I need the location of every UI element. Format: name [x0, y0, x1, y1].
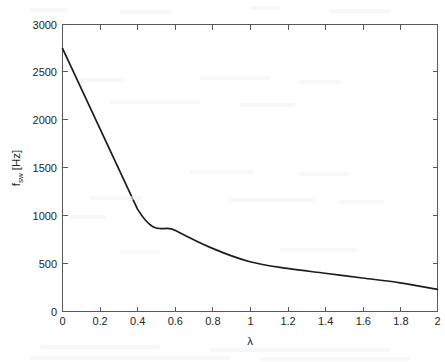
x-tick-label: 1.6: [356, 315, 371, 327]
y-axis-title-unit: [Hz]: [10, 150, 22, 174]
line-chart: 0 0.2 0.4 0.6 0.8 1 1.2 1.4 1.6 1.8 2 0 …: [0, 0, 445, 362]
y-tick-label: 2000: [33, 114, 57, 126]
x-tick-label: 1.2: [280, 315, 295, 327]
y-tick-labels: 0 500 1000 1500 2000 2500 3000: [33, 19, 57, 318]
y-axis-title: fsw [Hz]: [10, 150, 25, 187]
x-tick-label: 1: [247, 315, 253, 327]
svg-text:fsw [Hz]: fsw [Hz]: [10, 150, 25, 187]
y-tick-label: 3000: [33, 19, 57, 31]
x-tick-label: 2: [434, 315, 440, 327]
x-tick-label: 0.6: [168, 315, 183, 327]
figure-canvas: 0 0.2 0.4 0.6 0.8 1 1.2 1.4 1.6 1.8 2 0 …: [0, 0, 445, 362]
x-tick-label: 0.2: [92, 315, 107, 327]
x-tick-labels: 0 0.2 0.4 0.6 0.8 1 1.2 1.4 1.6 1.8 2: [59, 315, 440, 327]
x-tick-label: 1.8: [393, 315, 408, 327]
y-tick-label: 1500: [33, 162, 57, 174]
y-tick-label: 0: [51, 306, 57, 318]
x-tick-label: 0.8: [205, 315, 220, 327]
y-tick-label: 1000: [33, 210, 57, 222]
x-tick-label: 0.4: [130, 315, 145, 327]
x-axis-title: λ: [247, 335, 253, 347]
y-tick-label: 2500: [33, 66, 57, 78]
x-tick-label: 0: [59, 315, 65, 327]
y-axis-title-sub: sw: [16, 173, 25, 183]
x-tick-label: 1.4: [318, 315, 333, 327]
y-tick-label: 500: [39, 258, 57, 270]
